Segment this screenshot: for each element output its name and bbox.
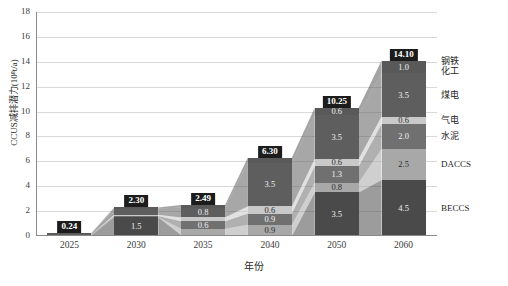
x-tick-label: 2050 (307, 240, 367, 250)
y-tick-label: 18 (4, 7, 30, 16)
legend-item-1[interactable]: 钢铁化工 (441, 56, 507, 76)
plot-frame (36, 12, 437, 236)
total-value-label: 2.30 (124, 195, 148, 207)
legend-item-5[interactable]: DACCS (441, 159, 507, 169)
total-value-label: 14.10 (389, 49, 417, 61)
x-tick-label: 2035 (173, 240, 233, 250)
y-tick-label: 2 (4, 206, 30, 215)
legend-item-6[interactable]: BECCS (441, 203, 507, 213)
legend-item-3[interactable]: 气电 (441, 115, 507, 125)
x-tick-label: 2060 (374, 240, 434, 250)
x-tick-label: 2040 (240, 240, 300, 250)
y-axis-title: CCUS减排潜力(10⁸t/a) (7, 38, 20, 168)
legend-item-2[interactable]: 煤电 (441, 90, 507, 100)
x-axis-title: 年份 (0, 258, 508, 273)
total-value-label: 6.30 (258, 146, 282, 158)
total-value-label: 0.24 (58, 221, 82, 233)
legend: 钢铁化工煤电气电水泥DACCSBECCS (441, 0, 508, 286)
x-tick-label: 2030 (106, 240, 166, 250)
legend-item-4[interactable]: 水泥 (441, 131, 507, 141)
ccus-stacked-bar-chart: 024681012141618 CCUS减排潜力(10⁸t/a) 1.50.80… (0, 0, 508, 286)
total-value-label: 2.49 (191, 193, 215, 205)
plot-area: 1.50.80.63.50.60.90.90.63.50.61.30.83.51… (36, 12, 437, 236)
y-tick-label: 0 (4, 231, 30, 240)
total-value-label: 10.25 (323, 96, 351, 108)
y-tick-label: 4 (4, 181, 30, 190)
x-tick-label: 2025 (39, 240, 99, 250)
